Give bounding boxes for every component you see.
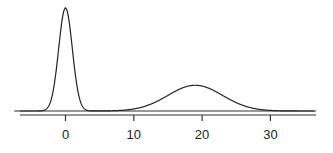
x-axis-ticks: 0102030	[62, 115, 278, 142]
x-tick-label: 30	[263, 127, 277, 142]
x-tick-label: 10	[127, 127, 141, 142]
x-tick-label: 0	[62, 127, 69, 142]
density-chart: 0102030	[0, 0, 333, 153]
density-curve	[14, 8, 314, 111]
x-tick-label: 20	[195, 127, 209, 142]
